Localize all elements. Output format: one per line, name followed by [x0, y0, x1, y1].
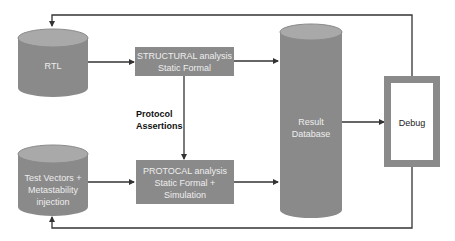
result-db-label-line2: Database: [292, 129, 331, 139]
structural-label-line1: STRUCTURAL analysis: [137, 51, 233, 61]
node-rtl: RTL: [18, 29, 88, 97]
protocol-label-line2: Static Formal +: [155, 178, 216, 188]
edge-label-line2: Assertions: [136, 121, 183, 131]
test-vectors-label-line3: injection: [36, 197, 69, 207]
node-test-vectors: Test Vectors + Metastability injection: [18, 145, 88, 216]
edge-label-line1: Protocol: [136, 109, 173, 119]
node-result-db: Result Database: [280, 24, 342, 218]
structural-label-line2: Static Formal: [158, 63, 211, 73]
flow-diagram: RTL Test Vectors + Metastability injecti…: [0, 0, 455, 241]
protocol-label-line3: Simulation: [164, 190, 206, 200]
test-vectors-label-line2: Metastability: [28, 185, 79, 195]
edge-label-protocol-assertions: Protocol Assertions: [136, 109, 183, 131]
node-structural: STRUCTURAL analysis Static Formal: [135, 47, 234, 76]
rtl-label: RTL: [45, 61, 62, 71]
node-protocol: PROTOCAL analysis Static Formal + Simula…: [136, 160, 234, 204]
node-debug: Debug: [384, 76, 440, 167]
result-db-label-line1: Result: [298, 117, 324, 127]
test-vectors-label-line1: Test Vectors +: [25, 173, 82, 183]
protocol-label-line1: PROTOCAL analysis: [143, 166, 228, 176]
debug-label: Debug: [399, 118, 426, 128]
